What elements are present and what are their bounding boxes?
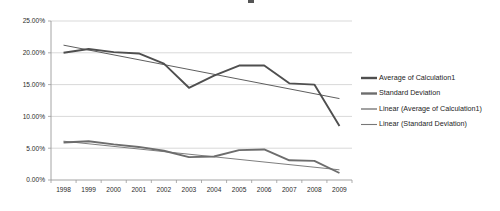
x-axis-tick-label: 2008 <box>307 186 322 193</box>
legend-item[interactable]: Standard Deviation <box>361 88 440 97</box>
series-line <box>64 141 340 170</box>
cropped-title-remnant <box>248 0 254 3</box>
x-axis-tick-label: 2009 <box>332 186 347 193</box>
y-axis-tick-label: 0.00% <box>26 176 45 183</box>
x-axis-tick-label: 1999 <box>81 186 96 193</box>
y-axis-tick-labels: 0.00%5.00%10.00%15.00%20.00%25.00% <box>23 17 46 183</box>
x-axis-tick-label: 2005 <box>232 186 247 193</box>
x-axis-tick-label: 2002 <box>157 186 172 193</box>
x-axis-tick-label: 1998 <box>56 186 71 193</box>
y-axis-tick-label: 5.00% <box>26 145 45 152</box>
line-chart: 0.00%5.00%10.00%15.00%20.00%25.00% 19981… <box>0 0 500 211</box>
plot-series-group <box>64 45 340 173</box>
x-axis-tick-label: 2000 <box>106 186 121 193</box>
x-axis-tick-label: 2006 <box>257 186 272 193</box>
x-axis-tick-label: 2001 <box>131 186 146 193</box>
y-axis-tick-label: 15.00% <box>23 81 46 88</box>
legend-item-label: Average of Calculation1 <box>379 73 455 82</box>
legend-item-label: Linear (Standard Deviation) <box>379 119 467 128</box>
legend-item[interactable]: Linear (Standard Deviation) <box>361 119 467 128</box>
x-axis-tick-label: 2007 <box>282 186 297 193</box>
chart-legend: Average of Calculation1Standard Deviatio… <box>361 73 482 129</box>
legend-item-label: Linear (Average of Calculation1) <box>379 104 482 113</box>
chart-container: 0.00%5.00%10.00%15.00%20.00%25.00% 19981… <box>0 0 500 211</box>
x-axis-tick-label: 2003 <box>182 186 197 193</box>
x-axis-tick-labels: 1998199920002001200220032004200520062007… <box>56 186 347 193</box>
legend-item-label: Standard Deviation <box>379 88 440 97</box>
series-line <box>64 45 340 98</box>
y-axis-tick-label: 10.00% <box>23 113 46 120</box>
series-line <box>64 49 340 126</box>
y-axis-tick-label: 25.00% <box>23 17 46 24</box>
y-axis-tick-label: 20.00% <box>23 49 46 56</box>
legend-item[interactable]: Average of Calculation1 <box>361 73 455 82</box>
legend-item[interactable]: Linear (Average of Calculation1) <box>361 104 482 113</box>
x-axis-tick-label: 2004 <box>207 186 222 193</box>
